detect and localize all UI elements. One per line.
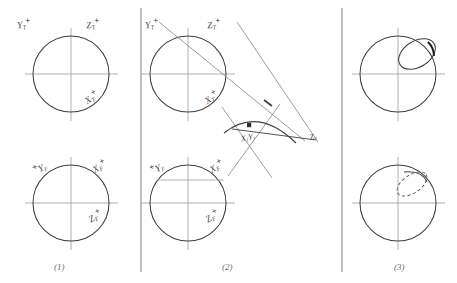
panel2-upper-figure [142, 28, 235, 121]
panel1-upper-label-y: YT+ [16, 16, 31, 32]
panel3-upper-ellipse-tangent-accent [428, 42, 434, 56]
panel3-lower-ellipse-solid-arc [404, 172, 427, 182]
construction-ray-from-y [159, 22, 305, 141]
panel3-lower-figure [352, 157, 445, 250]
panel2-construction-rays [159, 22, 318, 178]
construction-node-dot [247, 123, 251, 127]
panel2-upper-label-z: ZT+ [206, 16, 221, 32]
panel1-upper-figure [25, 28, 118, 121]
panel1-upper-label-z: ZT+ [85, 16, 100, 32]
panel3-upper-figure [352, 28, 445, 121]
diagram-canvas [0, 0, 457, 283]
ray-tick-marker [264, 100, 272, 106]
caption-panel-3: (3) [394, 262, 405, 272]
caption-panel-2: (2) [222, 262, 233, 272]
panel2-upper-label-y: YT+ [144, 16, 159, 32]
diagram-sheet: YT+ ZT+ XT+ +YF XF+ ZF+ YT+ ZT+ XT+ X1Y1… [0, 0, 457, 283]
caption-panel-1: (1) [54, 262, 65, 272]
